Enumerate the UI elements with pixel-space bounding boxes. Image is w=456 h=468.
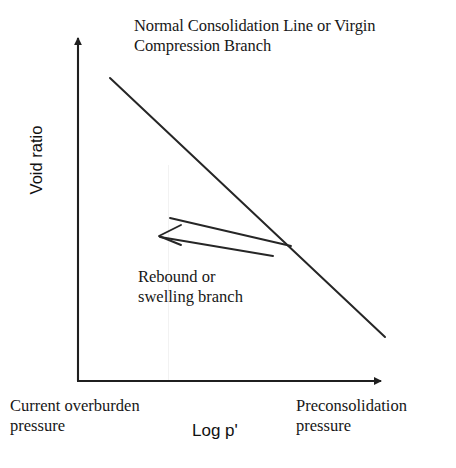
x-axis-label: Log p': [192, 421, 238, 442]
rebound-swelling-arrow: [159, 218, 291, 256]
preconsolidation-pressure-label: Preconsolidation pressure: [296, 396, 407, 436]
current-overburden-pressure-label: Current overburden pressure: [10, 396, 140, 436]
consolidation-curve-figure: Normal Consolidation Line or Virgin Comp…: [0, 0, 456, 468]
rebound-branch-annotation: Rebound or swelling branch: [138, 267, 243, 307]
y-axis-label: Void ratio: [26, 105, 46, 215]
rebound-arrowhead-icon: [159, 225, 181, 245]
rebound-lower-stroke: [160, 237, 273, 256]
title-annotation: Normal Consolidation Line or Virgin Comp…: [134, 16, 375, 56]
